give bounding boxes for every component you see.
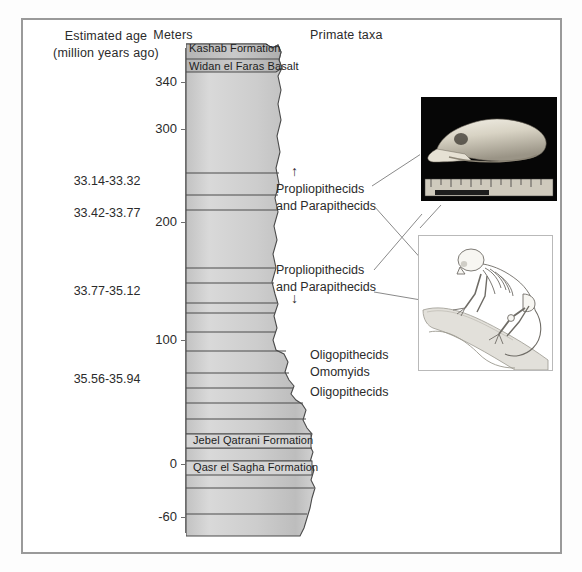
primate-skeleton-illustration-inset <box>418 235 553 371</box>
taxa-line: Oligopithecids <box>310 347 389 364</box>
range-arrow-down-icon: ↓ <box>291 293 298 303</box>
taxa-annotation-propliopithecids-upper: Propliopithecids and Parapithecids <box>276 181 376 215</box>
taxa-annotation-oligopithecids: Oligopithecids <box>310 384 389 401</box>
skeleton-knee-joint <box>508 315 515 322</box>
axis-tick-label: 300 <box>131 121 177 136</box>
age-label: 33.14-33.32 <box>34 174 180 188</box>
axis-tick-label: 200 <box>131 214 177 229</box>
skeleton-orbit <box>461 261 467 267</box>
formation-label-kashab: Kashab Formation <box>189 42 280 54</box>
taxa-annotation-oligopithecids-omomyids: Oligopithecids Omomyids <box>310 347 389 381</box>
axis-tick-label: 100 <box>131 332 177 347</box>
axis-tick-label: 0 <box>131 456 177 471</box>
age-label: 35.56-35.94 <box>34 372 180 386</box>
skull-orbit <box>454 133 468 145</box>
skeleton-skull <box>458 249 484 271</box>
age-label: 33.77-35.12 <box>34 284 180 298</box>
axis-tick-label: 340 <box>131 74 177 89</box>
stratigraphic-figure: Estimated age (million years ago) Meters… <box>0 0 582 572</box>
axis-tick-label: -60 <box>131 509 177 524</box>
formation-label-jebel-qatrani: Jebel Qatrani Formation <box>193 434 313 446</box>
taxa-line: Oligopithecids <box>310 384 389 401</box>
column-header-meters: Meters <box>143 28 203 42</box>
header-age-line2: (million years ago) <box>36 45 176 62</box>
ruler-caption-bar <box>435 190 489 195</box>
formation-label-qasr-el-sagha: Qasr el Sagha Formation <box>193 461 318 473</box>
fossil-skull-photo-inset <box>420 96 558 202</box>
range-arrow-up-icon: ↑ <box>291 166 298 176</box>
formation-label-widan-el-faras: Widan el Faras Basalt <box>189 60 299 72</box>
taxa-line: Omomyids <box>310 364 389 381</box>
taxa-line: and Parapithecids <box>276 198 376 215</box>
taxa-line: Propliopithecids <box>276 262 376 279</box>
taxa-line: Propliopithecids <box>276 181 376 198</box>
column-header-primate-taxa: Primate taxa <box>310 28 383 42</box>
